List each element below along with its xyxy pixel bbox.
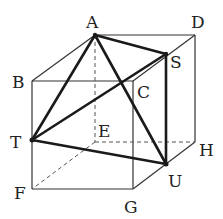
edge-AS <box>95 35 166 54</box>
cube-diagram: A D B C S T E H U F G <box>0 0 223 219</box>
label-A: A <box>85 12 99 32</box>
label-T: T <box>10 132 22 152</box>
edge-AU <box>95 35 166 164</box>
label-E: E <box>98 121 110 141</box>
label-B: B <box>12 72 25 92</box>
label-G: G <box>124 197 138 217</box>
point-T <box>30 138 35 143</box>
label-D: D <box>191 12 205 32</box>
edge-DC <box>133 35 195 81</box>
point-U <box>164 162 169 167</box>
label-H: H <box>199 140 214 160</box>
edge-AT <box>32 35 95 140</box>
point-A <box>93 33 97 37</box>
vertex-labels: A D B C S T E H U F G <box>10 12 214 217</box>
edge-AB <box>32 35 95 81</box>
label-F: F <box>14 183 26 203</box>
label-S: S <box>170 52 182 72</box>
edge-TU <box>32 140 166 164</box>
label-C: C <box>137 82 150 102</box>
point-S <box>164 52 168 56</box>
label-U: U <box>168 171 182 191</box>
